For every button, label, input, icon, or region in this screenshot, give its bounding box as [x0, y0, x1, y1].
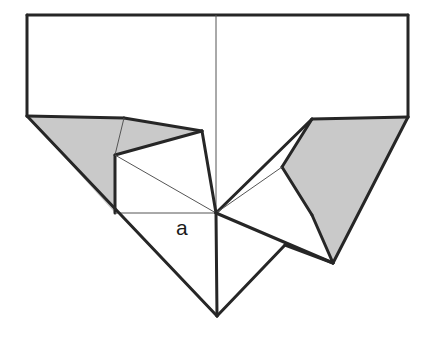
left-shade-top-edge	[27, 116, 124, 118]
angle-label-a: a	[176, 216, 188, 239]
right-shade-top-edge	[312, 117, 408, 119]
figure-root: a	[0, 0, 423, 344]
labels-layer: a	[176, 216, 188, 239]
origami-diagram: a	[0, 0, 423, 344]
center-to-bottom-apex	[216, 213, 217, 316]
